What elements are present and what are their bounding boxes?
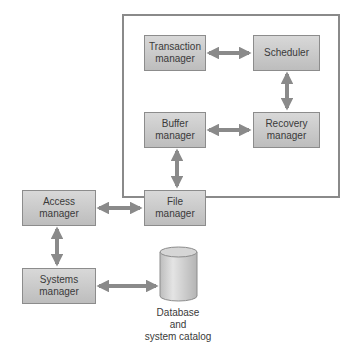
- transaction-manager-label-1: Transaction: [149, 41, 201, 53]
- file-manager-label-1: File: [155, 196, 194, 208]
- access-manager-label-1: Access: [39, 196, 78, 208]
- systems-manager-box: Systemsmanager: [22, 268, 96, 304]
- transaction-manager-box: Transactionmanager: [144, 35, 206, 71]
- buffer-manager-label-1: Buffer: [155, 118, 194, 130]
- scheduler-label: Scheduler: [264, 47, 309, 59]
- systems-manager-label-1: Systems: [39, 274, 78, 286]
- database-label-3: system catalog: [130, 331, 226, 343]
- recovery-manager-box: Recoverymanager: [253, 112, 320, 148]
- recovery-manager-label-2: manager: [265, 130, 307, 142]
- buffer-manager-label-2: manager: [155, 130, 194, 142]
- scheduler-box: Scheduler: [253, 35, 320, 71]
- database-label-2: and: [130, 319, 226, 331]
- access-manager-box: Accessmanager: [22, 190, 96, 226]
- file-manager-label-2: manager: [155, 208, 194, 220]
- database-cylinder-icon: [160, 247, 197, 301]
- database-label: Database and system catalog: [130, 307, 226, 343]
- buffer-manager-box: Buffermanager: [144, 112, 206, 148]
- transaction-manager-label-2: manager: [149, 53, 201, 65]
- database-label-1: Database: [130, 307, 226, 319]
- access-manager-label-2: manager: [39, 208, 78, 220]
- recovery-manager-label-1: Recovery: [265, 118, 307, 130]
- systems-manager-label-2: manager: [39, 286, 78, 298]
- file-manager-box: Filemanager: [144, 190, 206, 226]
